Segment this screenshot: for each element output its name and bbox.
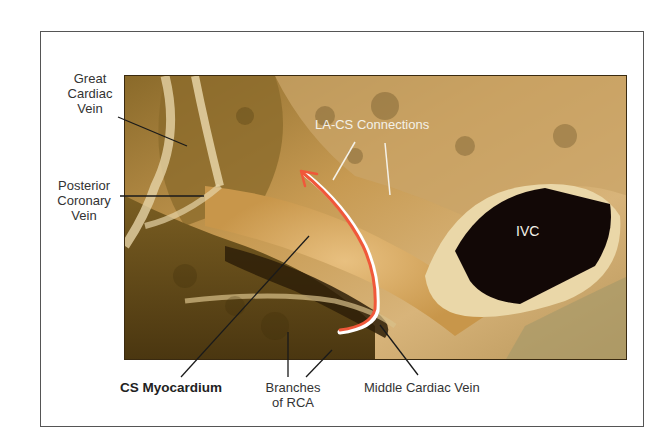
label-posterior-coronary-vein: Posterior Coronary Vein xyxy=(48,178,120,223)
label-line: Great xyxy=(58,71,122,86)
label-line: Coronary xyxy=(48,193,120,208)
label-branches-of-rca: Branches of RCA xyxy=(258,380,328,410)
label-line: Cardiac xyxy=(58,86,122,101)
label-line: of RCA xyxy=(258,395,328,410)
label-line: Posterior xyxy=(48,178,120,193)
label-great-cardiac-vein: Great Cardiac Vein xyxy=(58,71,122,116)
label-line: Vein xyxy=(58,101,122,116)
label-la-cs-connections: LA-CS Connections xyxy=(315,117,429,132)
label-middle-cardiac-vein: Middle Cardiac Vein xyxy=(364,380,480,395)
label-line: Vein xyxy=(48,208,120,223)
label-line: Branches xyxy=(258,380,328,395)
label-cs-myocardium: CS Myocardium xyxy=(120,380,222,395)
label-ivc: IVC xyxy=(516,224,539,239)
